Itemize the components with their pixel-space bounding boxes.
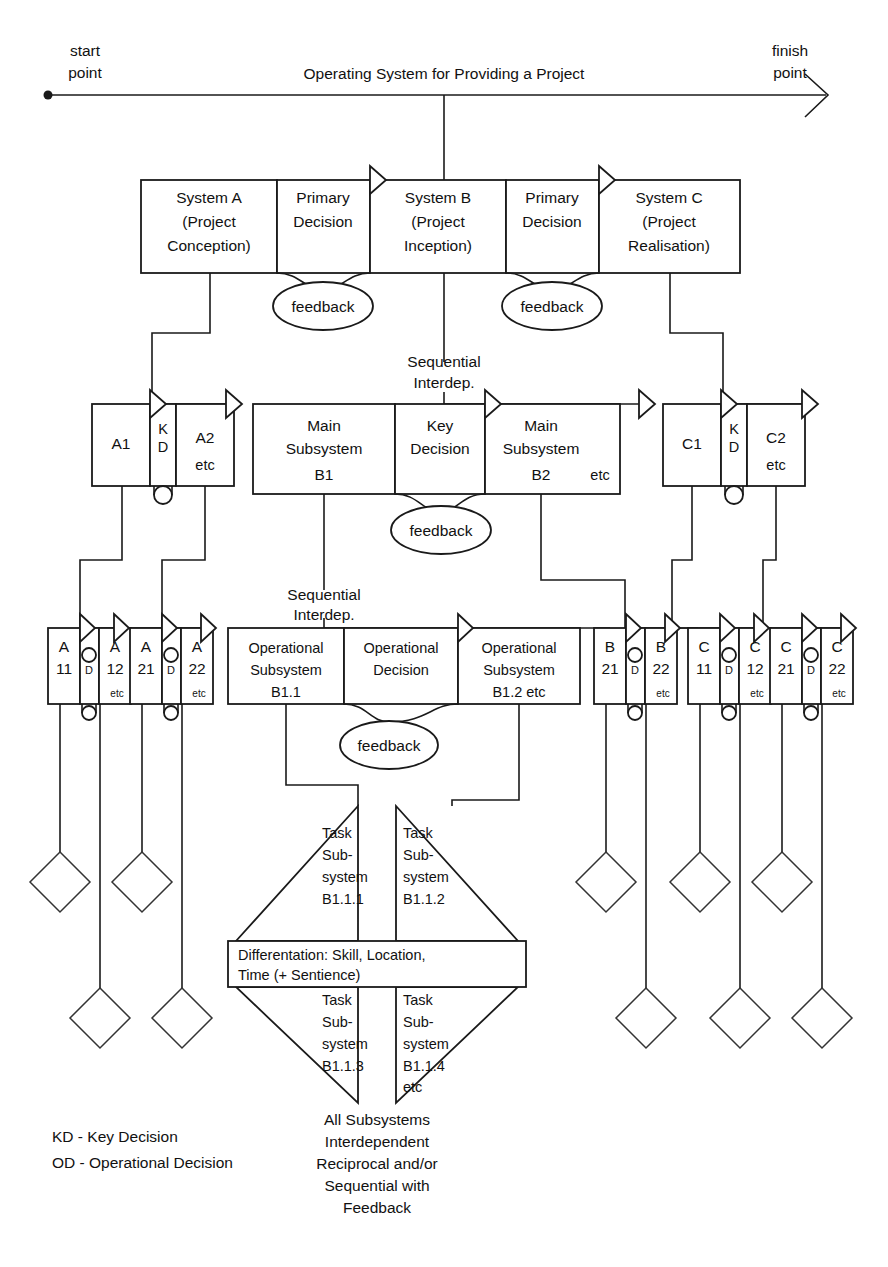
legend-od: OD - Operational Decision [52, 1154, 233, 1171]
b12-l2: Subsystem [483, 662, 555, 678]
arrow-row2-c-out [802, 390, 818, 418]
connector-c-down [670, 273, 723, 404]
row2-group-a: A1 K D A2 etc [92, 390, 242, 504]
loop-circle-a1 [82, 706, 96, 720]
finish-label-line1: finish [772, 42, 808, 59]
seq-interdep-row3-l1: Sequential [287, 586, 360, 603]
c12-l2: 12 [746, 660, 763, 677]
tr-l2: Sub- [403, 847, 434, 863]
row2-group-b: Main Subsystem B1 Key Decision Main Subs… [253, 390, 655, 494]
feedback-loop-4: feedback [340, 704, 458, 769]
loop-circle-c2 [804, 706, 818, 720]
task-subsystem-cluster: Task Sub- system B1.1.1 Task Sub- system… [228, 806, 526, 1103]
connector-b2-down [541, 494, 625, 628]
system-b-l1: System B [405, 189, 471, 206]
legend-kd: KD - Key Decision [52, 1128, 178, 1145]
tl-l2: Sub- [322, 847, 353, 863]
start-label-line2: point [68, 64, 102, 81]
seq-interdep-row3-l2: Interdep. [293, 606, 354, 623]
b12-l3: B1.2 etc [492, 684, 545, 700]
od-circle-c2 [804, 648, 818, 662]
tr-l3: system [403, 869, 449, 885]
loop-circle-a [154, 486, 172, 504]
leg-b12-into-cluster [452, 704, 519, 806]
diamond-a12 [70, 988, 130, 1048]
diamond-b22 [616, 988, 676, 1048]
b12-l1: Operational [482, 640, 557, 656]
loop-circle-c [725, 486, 743, 504]
label-a1: A1 [112, 435, 131, 452]
c22-l2: 22 [828, 660, 845, 677]
connector-a2-down [162, 486, 205, 628]
opdec-l2: Decision [373, 662, 429, 678]
row3-group-a21-a22: A 21 D A 22 etc [114, 614, 216, 720]
caption-l1: All Subsystems [324, 1111, 430, 1128]
label-a2-etc: etc [195, 457, 214, 473]
a22-l2: 22 [188, 660, 205, 677]
tl-l1: Task [322, 825, 353, 841]
od-b2-l2: D [631, 664, 639, 676]
primary-decision-2-l1: Primary [525, 189, 579, 206]
b21-l2: 21 [601, 660, 618, 677]
start-point-dot [44, 91, 53, 100]
c21-l2: 21 [777, 660, 794, 677]
br-l3: system [403, 1036, 449, 1052]
bl-l4: B1.1.3 [322, 1058, 364, 1074]
b11-l1: Operational [249, 640, 324, 656]
a11-l2: 11 [56, 660, 72, 677]
diagram-canvas: start point finish point Operating Syste… [0, 0, 888, 1267]
bl-l3: system [322, 1036, 368, 1052]
diamond-a11 [30, 852, 90, 912]
caption-l2: Interdependent [325, 1133, 430, 1150]
diamond-a21 [112, 852, 172, 912]
connector-c1-down [672, 486, 692, 628]
diamond-c12 [710, 988, 770, 1048]
b2-l3: B2 [532, 466, 551, 483]
feedback-loop-1: feedback [273, 273, 373, 330]
od-circle-b2 [628, 648, 642, 662]
label-a2: A2 [196, 429, 215, 446]
br-l2: Sub- [403, 1014, 434, 1030]
start-label-line1: start [70, 42, 101, 59]
tr-l1: Task [403, 825, 434, 841]
b11-l3: B1.1 [271, 684, 301, 700]
feedback-loop-2: feedback [502, 273, 602, 330]
diamond-b21 [576, 852, 636, 912]
tl-l3: system [322, 869, 368, 885]
system-c-l2: (Project [642, 213, 696, 230]
a22-etc: etc [192, 688, 205, 699]
connector-a1-down [80, 486, 122, 628]
seq-interdep-row2-l1: Sequential [407, 353, 480, 370]
system-c-l3: Realisation) [628, 237, 710, 254]
connector-c2-down [763, 486, 776, 628]
od-c1-l2: D [725, 664, 733, 676]
caption-l4: Sequential with [324, 1177, 429, 1194]
c12-etc: etc [750, 688, 763, 699]
c11-l1: C [698, 638, 709, 655]
row3-group-c21-c22: C 21 D C 22 etc [754, 614, 856, 720]
label-c1: C1 [682, 435, 702, 452]
tl-l4: B1.1.1 [322, 891, 364, 907]
b2-etc: etc [590, 467, 609, 483]
diamond-c21 [752, 852, 812, 912]
a12-etc: etc [110, 688, 123, 699]
label-c2: C2 [766, 429, 786, 446]
od-c2-l2: D [807, 664, 815, 676]
c22-etc: etc [832, 688, 845, 699]
a21-l2: 21 [137, 660, 154, 677]
row3-group-b21-b22: B 21 D B 22 etc [594, 614, 680, 720]
band-l1: Differentation: Skill, Location, [238, 947, 426, 963]
diamond-a22 [152, 988, 212, 1048]
loop-circle-b2 [628, 706, 642, 720]
c11-l2: 11 [696, 660, 712, 677]
caption-l5: Feedback [343, 1199, 411, 1216]
finish-label-line2: point [773, 64, 807, 81]
caption-l3: Reciprocal and/or [316, 1155, 437, 1172]
b2-l1: Main [524, 417, 558, 434]
od-a2-l2: D [167, 664, 175, 676]
key-decision-l2: Decision [410, 440, 469, 457]
tr-l4: B1.1.2 [403, 891, 445, 907]
connector-a-down [152, 273, 210, 404]
system-b-l2: (Project [411, 213, 465, 230]
system-c-l1: System C [635, 189, 702, 206]
